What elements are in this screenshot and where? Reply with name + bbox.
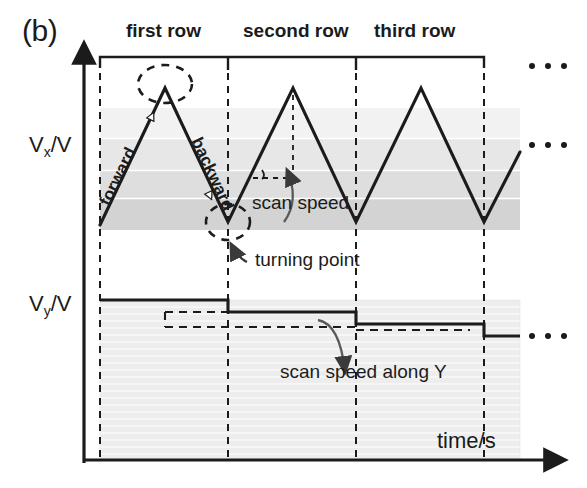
middle-continuation-dots [529,142,567,148]
vy-subscript: y [44,303,51,319]
peak-highlight-circle [138,65,192,103]
dot [561,142,567,148]
top-continuation-dots [529,63,567,69]
vx-unit: /V [51,132,72,157]
dot [545,333,551,339]
bottom-continuation-dots [529,333,567,339]
row-bracket [100,57,484,70]
page-title: (b) [22,16,57,46]
dot [529,63,535,69]
scan-speed-along-y-label: scan speed along Y [280,362,447,381]
turning-point-label: turning point [255,250,360,269]
scan-speed-label: scan speed [252,193,349,212]
turning-point-leader-arrow [231,244,247,262]
dot [545,63,551,69]
x-axis-label-time: time/s [437,430,496,452]
vy-symbol: V [29,291,44,316]
dot [545,142,551,148]
dot [529,142,535,148]
figure-panel-b: (b) Vx/V Vy/V first row second row third… [0,0,587,488]
row-label-second: second row [243,21,349,40]
vx-symbol: V [29,132,44,157]
waveform-plot [0,0,587,488]
vx-subscript: x [44,144,51,160]
row-label-third: third row [374,21,455,40]
vy-unit: /V [51,291,72,316]
dot [561,63,567,69]
row-label-first: first row [126,21,201,40]
dot [529,333,535,339]
y-axis-label-vy: Vy/V [29,293,71,318]
dot [561,333,567,339]
y-axis-label-vx: Vx/V [29,134,71,159]
